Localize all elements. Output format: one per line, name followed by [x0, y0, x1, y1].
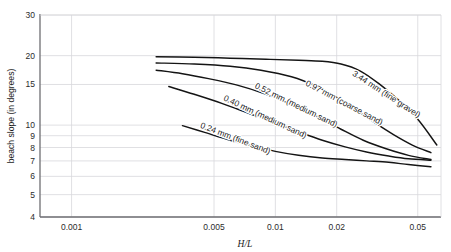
y-tick-label-4: 8	[30, 143, 35, 153]
y-tick-label-5: 9	[30, 131, 35, 141]
x-axis-title: H/L	[237, 239, 253, 249]
x-tick-label-3: 0.02	[328, 222, 345, 232]
chart-container: 0.24 mm (fine sand)0.40 mm (medium sand)…	[0, 0, 451, 252]
x-tick-label-1: 0.005	[203, 222, 225, 232]
y-axis-title: beach slope (in degrees)	[6, 69, 16, 164]
x-tick-label-4: 0.05	[410, 222, 427, 232]
x-tick-label-2: 0.01	[267, 222, 284, 232]
y-tick-label-0: 4	[30, 212, 35, 222]
y-tick-label-7: 15	[26, 79, 36, 89]
x-tick-label-0: 0.001	[61, 222, 83, 232]
y-tick-label-6: 10	[26, 120, 36, 130]
y-tick-label-9: 30	[26, 10, 36, 20]
beach-slope-vs-wave-steepness-chart: 0.24 mm (fine sand)0.40 mm (medium sand)…	[0, 0, 451, 252]
chart-background	[0, 0, 451, 252]
y-tick-label-2: 6	[30, 171, 35, 181]
y-tick-label-1: 5	[30, 190, 35, 200]
y-tick-label-8: 20	[26, 51, 36, 61]
y-tick-label-3: 7	[30, 156, 35, 166]
